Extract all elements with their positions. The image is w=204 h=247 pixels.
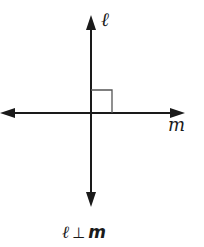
- arrowhead-up-icon: [86, 15, 96, 30]
- perpendicular-symbol-icon: ⊥: [72, 224, 85, 242]
- arrowhead-left-icon: [0, 108, 15, 118]
- caption-line-l: ℓ: [62, 222, 69, 242]
- right-angle-marker-icon: [91, 90, 112, 113]
- label-l: ℓ: [101, 8, 109, 31]
- label-m: m: [168, 114, 185, 135]
- line-l: [86, 15, 96, 207]
- line-m: [0, 108, 185, 118]
- caption-line-m: m: [88, 222, 106, 242]
- arrowhead-down-icon: [86, 192, 96, 207]
- perpendicular-caption: ℓ⊥m: [62, 222, 106, 243]
